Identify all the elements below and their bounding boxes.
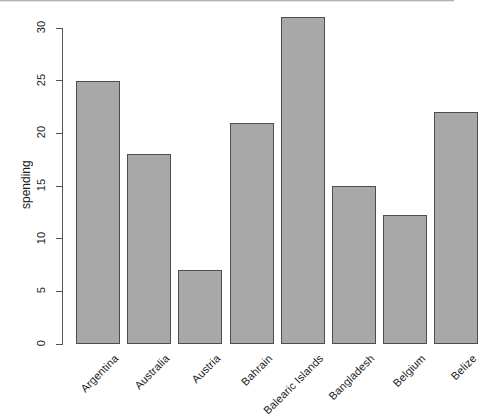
y-tick-20	[56, 133, 62, 134]
bar-balearic-islands	[281, 17, 325, 344]
bar-australia	[127, 154, 171, 344]
x-label-bangladesh: Bangladesh	[326, 352, 376, 402]
y-tick-label-5: 5	[35, 279, 47, 301]
bar-bangladesh	[332, 186, 376, 344]
y-tick-25	[56, 80, 62, 81]
bar-belgium	[383, 215, 427, 344]
x-label-austria: Austria	[190, 352, 223, 385]
y-tick-label-25: 25	[35, 69, 47, 91]
y-tick-label-20: 20	[35, 121, 47, 143]
x-label-argentina: Argentina	[78, 352, 120, 394]
y-tick-label-0: 0	[35, 332, 47, 354]
y-tick-label-wrap: 20	[30, 126, 52, 140]
y-tick-label-wrap: 5	[30, 284, 52, 298]
y-tick-5	[56, 291, 62, 292]
bar-argentina	[76, 81, 120, 344]
y-tick-label-wrap: 25	[30, 74, 52, 88]
y-tick-30	[56, 28, 62, 29]
x-label-australia: Australia	[132, 352, 171, 391]
x-label-belgium: Belgium	[391, 352, 428, 389]
bar-austria	[178, 270, 222, 344]
y-tick-label-wrap: 10	[30, 232, 52, 246]
y-tick-label-30: 30	[35, 16, 47, 38]
y-tick-label-wrap: 0	[30, 337, 52, 351]
bar-belize	[434, 112, 478, 344]
y-tick-15	[56, 186, 62, 187]
y-tick-0	[56, 344, 62, 345]
x-label-belize: Belize	[449, 352, 479, 382]
y-tick-label-wrap: 30	[30, 21, 52, 35]
y-tick-10	[56, 238, 62, 239]
y-axis-title: spending	[12, 155, 40, 215]
bar-bahrain	[230, 123, 274, 344]
x-label-bahrain: Bahrain	[238, 352, 274, 388]
y-axis-line	[62, 28, 63, 345]
y-tick-label-10: 10	[35, 227, 47, 249]
